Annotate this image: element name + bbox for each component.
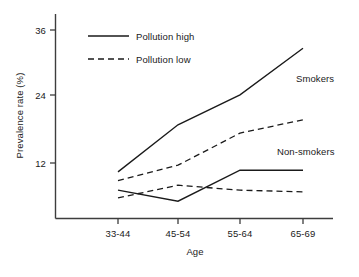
legend-label-pollution-high: Pollution high [136,31,194,42]
x-tick-marks [118,219,303,225]
x-axis-label: Age [55,246,335,257]
x-tick-label-55-64: 55-64 [228,228,253,239]
annotation-non-smokers: Non-smokers [277,146,335,157]
chart-figure: 36 24 12 33-44 45-54 55-64 65-69 Prevale… [0,0,359,277]
y-tick-label-12: 12 [22,158,46,169]
series-non-smokers-pollution-low [118,185,303,198]
y-tick-label-36: 36 [22,25,46,36]
x-tick-label-45-54: 45-54 [166,228,191,239]
y-axis-label-wrapper: Prevalence rate (%) [0,60,18,170]
series-smokers-pollution-high [118,48,303,172]
x-tick-label-65-69: 65-69 [291,228,316,239]
x-tick-label-33-44: 33-44 [106,228,131,239]
series-non-smokers-pollution-high [118,170,303,201]
y-tick-label-24: 24 [22,90,46,101]
legend-label-pollution-low: Pollution low [136,54,191,65]
y-axis-label: Prevalence rate (%) [14,48,25,183]
annotation-smokers: Smokers [296,73,334,84]
y-tick-marks [50,30,56,163]
